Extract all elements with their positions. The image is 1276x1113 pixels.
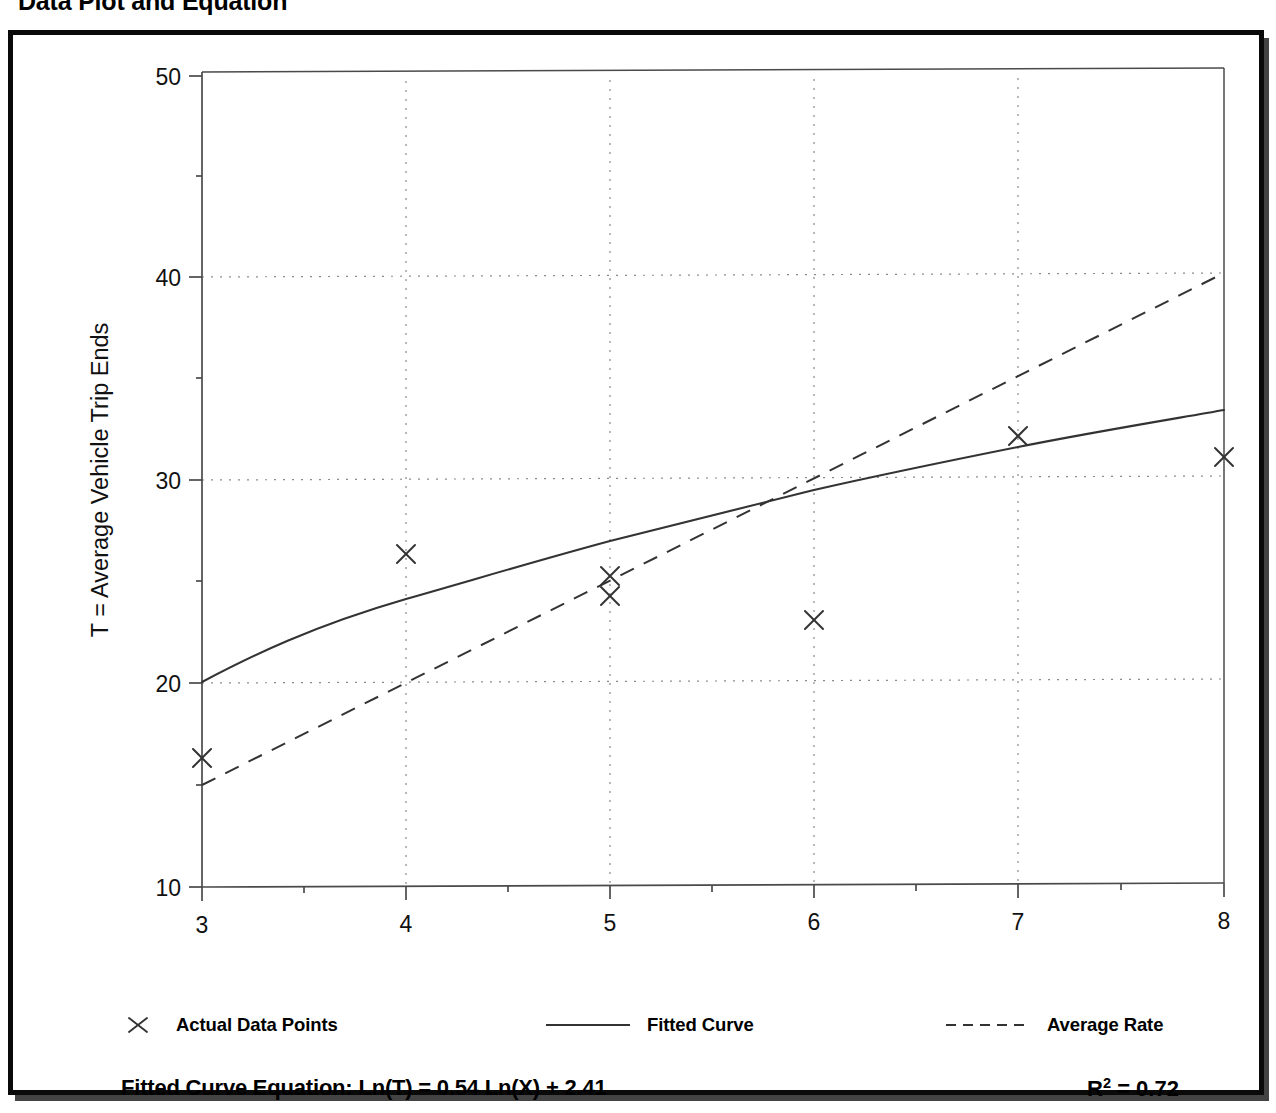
data-point-markers — [193, 427, 1233, 767]
x-tick-labels: 3 4 5 6 7 8 — [196, 908, 1231, 938]
y-tick-label-50: 50 — [155, 64, 181, 90]
x-tick-label-5: 5 — [604, 910, 617, 936]
legend-item-actual-data-points: Actual Data Points — [118, 1010, 338, 1040]
figure-frame: 50 40 30 20 10 3 4 5 6 7 8 X = Number of… — [8, 30, 1264, 1095]
r-squared-exponent: 2 — [1103, 1075, 1111, 1091]
fitted-curve-line — [202, 410, 1224, 682]
chart-plot-area: 50 40 30 20 10 3 4 5 6 7 8 X = Number of… — [13, 35, 1259, 965]
gridline-y-20 — [202, 679, 1224, 683]
axes — [202, 68, 1224, 887]
x-tick-label-8: 8 — [1218, 908, 1231, 934]
fitted-curve-equation: Fitted Curve Equation: Ln(T) = 0.54 Ln(X… — [121, 1075, 606, 1101]
legend-label-average-rate: Average Rate — [1047, 1014, 1163, 1036]
r-squared-value: R2 = 0.72 — [1087, 1075, 1179, 1102]
x-tick-label-4: 4 — [400, 911, 413, 937]
grid-lines — [202, 78, 1224, 886]
equation-row: Fitted Curve Equation: Ln(T) = 0.54 Ln(X… — [13, 1075, 1259, 1113]
x-tick-label-3: 3 — [196, 912, 209, 938]
y-tick-label-30: 30 — [155, 468, 181, 494]
legend-label-actual-data-points: Actual Data Points — [176, 1014, 338, 1036]
chart-svg: 50 40 30 20 10 3 4 5 6 7 8 X = Number of… — [13, 35, 1259, 965]
solid-line-icon — [543, 1013, 633, 1037]
chart-legend: Actual Data Points Fitted Curve Average … — [13, 1010, 1259, 1062]
y-tick-label-40: 40 — [155, 265, 181, 291]
legend-item-average-rate: Average Rate — [943, 1010, 1163, 1040]
x-axis-line — [202, 883, 1224, 887]
gridline-y-40 — [202, 273, 1224, 277]
x-marker-icon — [118, 1013, 158, 1037]
legend-label-fitted-curve: Fitted Curve — [647, 1014, 754, 1036]
legend-item-fitted-curve: Fitted Curve — [543, 1010, 754, 1040]
x-tick-label-7: 7 — [1012, 909, 1025, 935]
data-point-marker — [601, 567, 619, 585]
data-point-marker — [805, 611, 823, 629]
average-rate-line — [202, 273, 1224, 785]
y-tick-label-20: 20 — [155, 671, 181, 697]
page-title: Data Plot and Equation — [18, 0, 287, 16]
y-axis-title: T = Average Vehicle Trip Ends — [87, 323, 113, 638]
plot-top-border — [202, 68, 1224, 72]
data-point-marker — [397, 545, 415, 563]
y-tick-labels: 50 40 30 20 10 — [155, 64, 181, 901]
y-tick-label-10: 10 — [155, 875, 181, 901]
r-squared-number: = 0.72 — [1117, 1076, 1179, 1101]
dashed-line-icon — [943, 1013, 1033, 1037]
gridline-y-30 — [202, 476, 1224, 480]
x-tick-label-6: 6 — [808, 909, 821, 935]
r-squared-symbol: R — [1087, 1076, 1103, 1101]
